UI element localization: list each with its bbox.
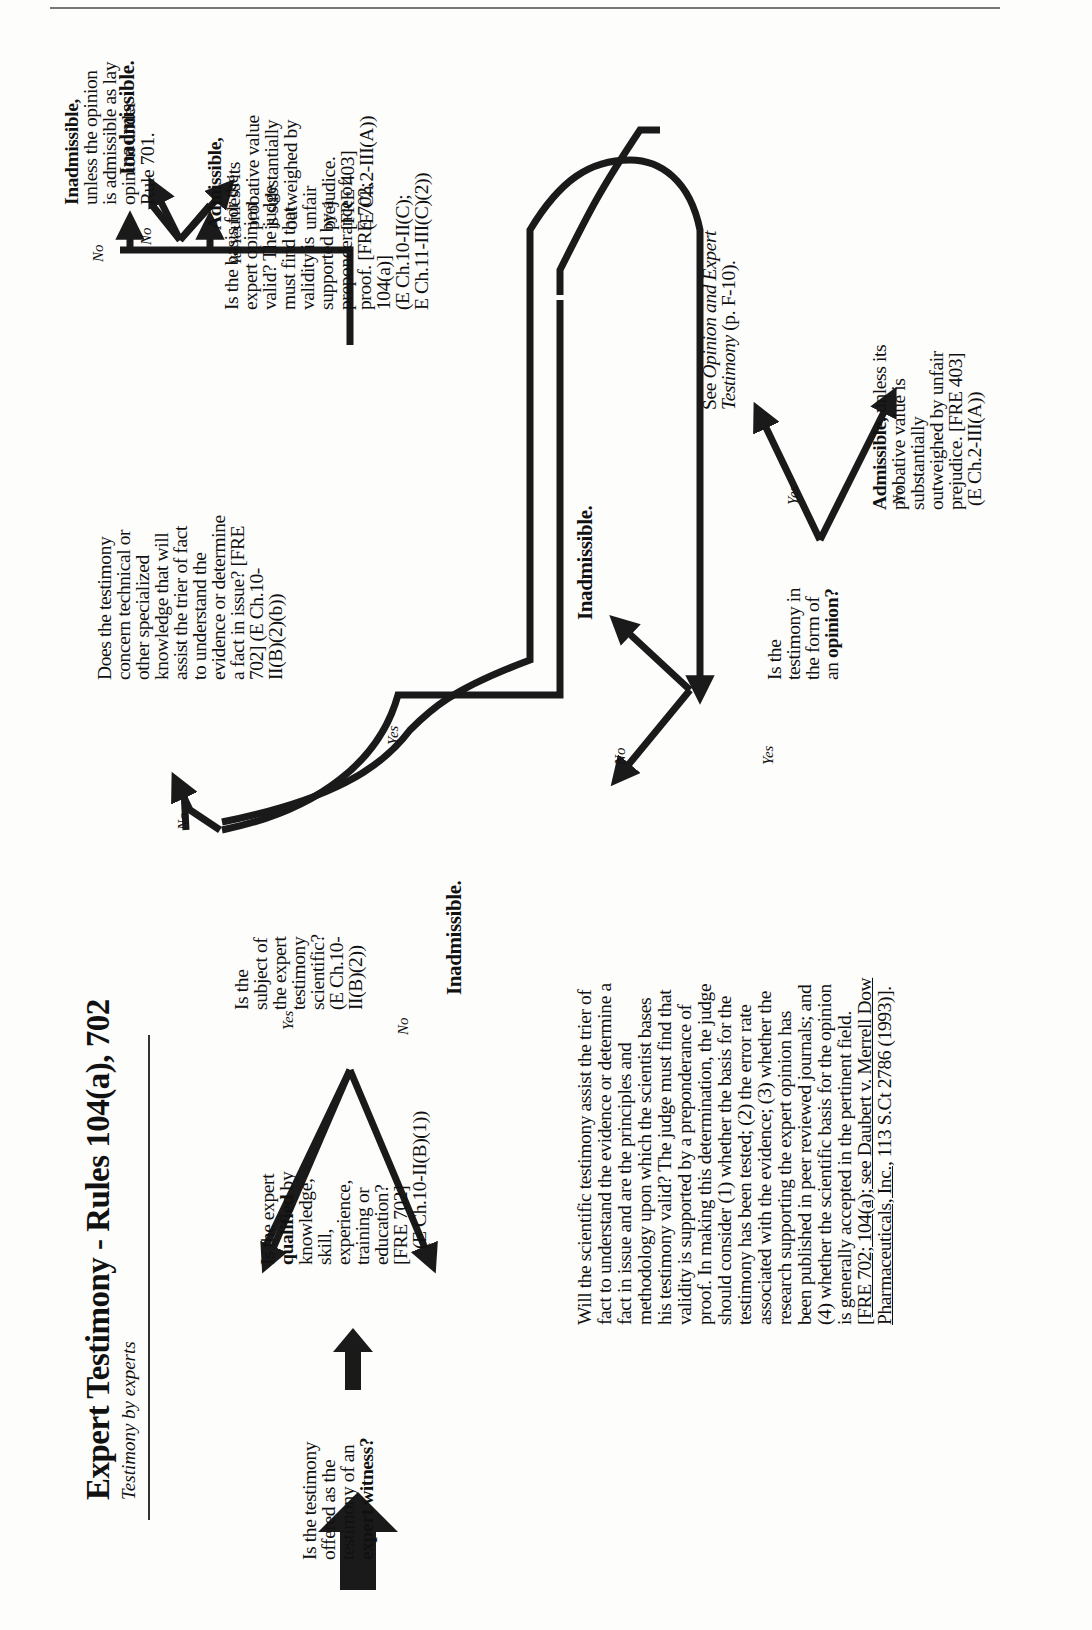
label-yes: Yes [760,746,777,765]
document-page: Expert Testimony - Rules 104(a), 702 Tes… [0,0,1092,1630]
label-yes: Yes [280,1011,297,1030]
node-see-opinion-reference: See Opinion and Expert Testimony (p. F-1… [700,231,738,410]
node-inadmissible-lay-opinion: Inadmissible, unless the opinion is admi… [62,62,157,205]
label-no: No [612,747,629,765]
node-daubert-validity: Will the scientific testimony assist the… [575,978,895,1325]
flowchart-canvas: Expert Testimony - Rules 104(a), 702 Tes… [0,0,1092,1630]
to-qualified-arrow-icon [333,1328,373,1390]
flowchart-connectors [0,0,1092,1630]
node-scientific: Is the subject of the expert testimony s… [232,934,365,1010]
page-subtitle: Testimony by experts [118,1341,140,1500]
node-opinion-form: Is the testimony in the form of an opini… [765,588,841,680]
label-no: No [395,1017,412,1035]
label-no: No [138,227,155,245]
node-start: Is the testimony offered as the testimon… [300,1438,376,1560]
label-yes: Yes [785,486,802,505]
node-inadmissible-daubert: Inadmissible. [576,506,595,620]
node-inadmissible-basis: Inadmissible. [118,61,137,175]
title-rule [148,1035,150,1520]
node-inadmissible-unqualified: Inadmissible. [445,881,464,995]
label-yes: Yes [385,726,402,745]
label-no: No [175,812,192,830]
node-admissible-final: Admissible, unless its probative value i… [870,345,984,510]
page-title: Expert Testimony - Rules 104(a), 702 [80,999,117,1500]
node-qualified: Is the expert qualified by knowledge, sk… [258,1111,429,1265]
label-no: No [90,244,107,262]
node-specialized-knowledge: Does the testimony concern technical or … [95,515,285,680]
node-admissible-basis: Admissible, unless its probative value i… [205,115,376,230]
daubert-case-link: Daubert v. Merrell Dow [854,978,875,1156]
label-yes: Yes [228,246,245,265]
